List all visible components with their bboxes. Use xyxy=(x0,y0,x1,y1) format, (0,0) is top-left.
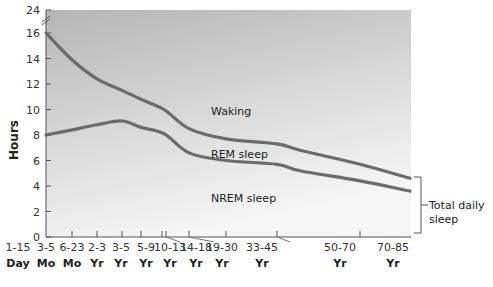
x-tick-unit: Yr xyxy=(254,257,269,270)
x-tick-range: 19-30 xyxy=(206,241,238,254)
y-tick-label: 8 xyxy=(33,129,40,142)
x-tick-unit: Yr xyxy=(162,257,177,270)
waking-label: Waking xyxy=(211,105,251,118)
y-tick-label: 24 xyxy=(26,4,40,17)
y-axis: 024681012141624 Hours xyxy=(7,4,51,244)
rem-sleep-label: REM sleep xyxy=(211,148,268,161)
x-tick-leader xyxy=(277,237,290,242)
x-tick-range: 2-3 xyxy=(88,241,106,254)
y-tick-label: 10 xyxy=(26,104,40,117)
x-tick-range: 70-85 xyxy=(377,241,409,254)
x-tick-unit: Mo xyxy=(63,257,82,270)
y-tick-label: 16 xyxy=(26,27,40,40)
x-tick-range: 6-23 xyxy=(60,241,85,254)
x-tick-unit: Yr xyxy=(385,257,400,270)
bracket-label-line2: sleep xyxy=(429,213,458,226)
x-tick-unit: Day xyxy=(6,257,29,270)
y-axis-label: Hours xyxy=(7,120,21,160)
sleep-chart: 024681012141624 Hours 1-15Day3-5Mo6-23Mo… xyxy=(0,0,493,287)
nrem-sleep-label: NREM sleep xyxy=(211,192,276,205)
x-tick-range: 5-9 xyxy=(137,241,155,254)
y-tick-label: 4 xyxy=(33,180,40,193)
y-tick-label: 14 xyxy=(26,53,40,66)
x-tick-unit: Yr xyxy=(332,257,347,270)
x-tick-range: 1-15 xyxy=(6,241,31,254)
x-tick-range: 3-5 xyxy=(37,241,55,254)
x-tick-unit: Yr xyxy=(214,257,229,270)
y-tick-label: 6 xyxy=(33,155,40,168)
total-daily-sleep-bracket: Total daily sleep xyxy=(414,177,485,233)
x-tick-unit: Yr xyxy=(113,257,128,270)
x-tick-range: 33-45 xyxy=(246,241,278,254)
x-tick-range: 3-5 xyxy=(112,241,130,254)
x-tick-unit: Mo xyxy=(37,257,56,270)
x-tick-unit: Yr xyxy=(188,257,203,270)
x-tick-unit: Yr xyxy=(138,257,153,270)
x-tick-range: 50-70 xyxy=(324,241,356,254)
y-tick-label: 2 xyxy=(33,206,40,219)
x-tick-unit: Yr xyxy=(89,257,104,270)
x-axis: 1-15Day3-5Mo6-23Mo2-3Yr3-5Yr5-9Yr10-13Yr… xyxy=(6,231,411,270)
bracket-label-line1: Total daily xyxy=(428,199,485,212)
y-tick-label: 12 xyxy=(26,78,40,91)
